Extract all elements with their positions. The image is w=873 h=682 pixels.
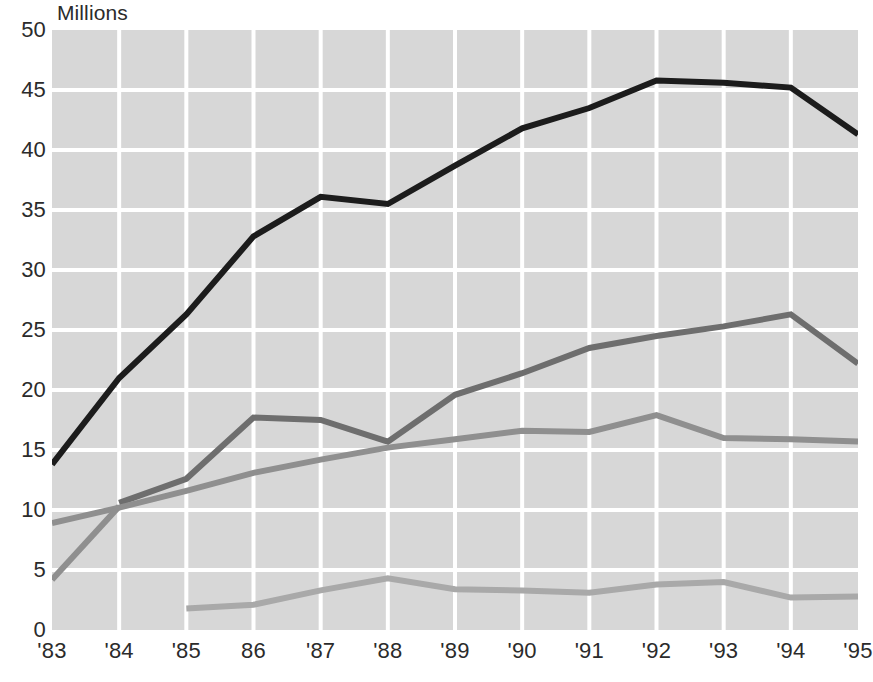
- y-axis-tick-label: 45: [2, 79, 46, 101]
- y-axis-labels: 05101520253035404550: [0, 0, 46, 682]
- y-axis-tick-label: 5: [2, 559, 46, 581]
- y-axis-unit-label: Millions: [57, 0, 128, 26]
- y-axis-tick-label: 40: [2, 139, 46, 161]
- y-axis-tick-label: 10: [2, 499, 46, 521]
- x-axis-tick-label: '91: [575, 638, 604, 664]
- x-axis-tick-label: 86: [241, 638, 266, 664]
- plot-area: [52, 30, 858, 630]
- x-axis-labels: '83'84'8586'87'88'89'90'91'92'93'94'95: [0, 638, 864, 682]
- x-axis-tick-label: '95: [843, 638, 872, 664]
- x-axis-tick-label: '83: [37, 638, 66, 664]
- x-axis-tick-label: '88: [373, 638, 402, 664]
- y-axis-tick-label: 30: [2, 259, 46, 281]
- x-axis-tick-label: '87: [306, 638, 335, 664]
- y-axis-tick-label: 35: [2, 199, 46, 221]
- y-axis-tick-label: 25: [2, 319, 46, 341]
- x-axis-tick-label: '94: [776, 638, 805, 664]
- x-axis-tick-label: '89: [440, 638, 469, 664]
- x-axis-tick-label: '92: [642, 638, 671, 664]
- y-axis-tick-label: 15: [2, 439, 46, 461]
- x-axis-tick-label: '84: [105, 638, 134, 664]
- y-axis-tick-label: 50: [2, 19, 46, 41]
- x-axis-tick-label: '90: [508, 638, 537, 664]
- series-line: [119, 314, 858, 502]
- plot-svg: [52, 30, 858, 630]
- x-axis-tick-label: '85: [172, 638, 201, 664]
- x-axis-tick-label: '93: [709, 638, 738, 664]
- y-axis-tick-label: 20: [2, 379, 46, 401]
